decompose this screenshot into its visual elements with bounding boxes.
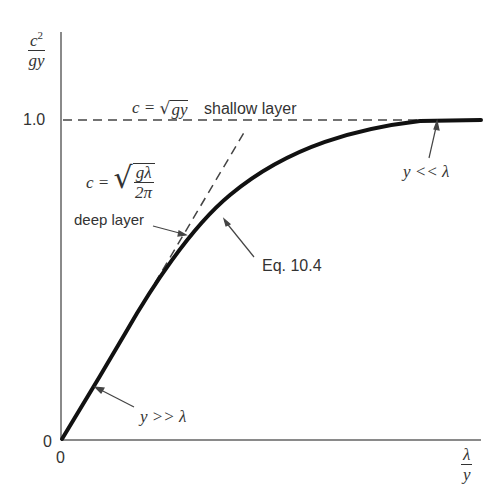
shallow-layer-label: shallow layer: [204, 101, 296, 117]
wave-speed-diagram: c2 gy 1.0 0 0 λ y c = √gy shallow layer …: [0, 0, 503, 497]
deep-formula: c = √ gλ 2π: [86, 163, 155, 201]
y-tick-0: 0: [43, 434, 52, 450]
plot-area: [0, 0, 503, 497]
limit-shallow-label: y << λ: [403, 163, 449, 180]
eq-10-4-label: Eq. 10.4: [262, 258, 322, 274]
limit-deep-label: y >> λ: [140, 408, 186, 425]
y-tick-1-0: 1.0: [23, 112, 45, 128]
x-tick-0: 0: [56, 450, 65, 466]
arrow-deep-layer: [153, 226, 186, 236]
deep-layer-label: deep layer: [74, 212, 144, 227]
arrow-eq-10-4: [224, 219, 254, 257]
y-axis-label: c2 gy: [28, 30, 45, 69]
x-axis-label: λ y: [461, 446, 472, 483]
shallow-formula: c = √gy: [132, 99, 188, 118]
arrow-y-much-greater-lambda: [95, 387, 134, 407]
arrow-y-much-less-lambda: [429, 121, 439, 158]
